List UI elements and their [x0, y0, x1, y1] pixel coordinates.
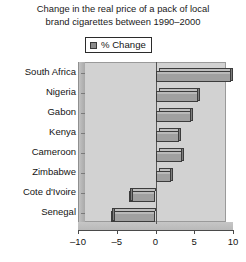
bar-cote-d-ivoire [129, 191, 155, 202]
bar-depth-side [130, 188, 133, 201]
chart-container: Change in the real price of a pack of lo… [0, 0, 246, 262]
bar-kenya [156, 131, 179, 142]
y-axis-label-senegal: Senegal [0, 207, 76, 217]
bar-depth-side [190, 108, 193, 121]
bar-nigeria [156, 91, 199, 102]
y-axis-tick [81, 93, 85, 94]
bar-depth-top [159, 128, 180, 131]
y-axis-label-zimbabwe: Zimbabwe [0, 167, 76, 177]
bar-depth-top [132, 188, 156, 191]
x-axis-tick [117, 230, 118, 234]
bar-depth-side [112, 208, 115, 221]
y-axis-tick [81, 113, 85, 114]
bar-highlight [157, 112, 191, 114]
bar-cameroon [156, 151, 182, 162]
bar-gabon [156, 111, 192, 122]
y-axis-tick [81, 213, 85, 214]
chart-title-line-2: brand cigarettes between 1990–2000 [0, 16, 246, 29]
x-axis-ticklabel: 0 [141, 236, 171, 247]
x-axis-ticklabel: –10 [63, 236, 93, 247]
bar-depth-side [181, 148, 184, 161]
y-axis-label-nigeria: Nigeria [0, 87, 76, 97]
bar-highlight [157, 152, 181, 154]
bar-senegal [111, 211, 156, 222]
bar-depth-side [197, 88, 200, 101]
bar-highlight [157, 132, 178, 134]
chart-title-line-1: Change in the real price of a pack of lo… [0, 3, 246, 16]
bar-depth-top [159, 68, 233, 71]
bar-depth-side [178, 128, 181, 141]
y-axis-tick [81, 193, 85, 194]
bar-highlight [130, 192, 154, 194]
x-axis-ticklabel: 5 [179, 236, 209, 247]
y-axis-tick [81, 173, 85, 174]
bar-zimbabwe [156, 171, 172, 182]
legend-entry-label: % Change [101, 40, 146, 50]
y-axis-label-south-africa: South Africa [0, 67, 76, 77]
bar-depth-top [159, 108, 193, 111]
bar-depth-side [170, 168, 173, 181]
y-axis-label-kenya: Kenya [0, 127, 76, 137]
bar-highlight [157, 72, 231, 74]
y-axis-tick [81, 153, 85, 154]
y-axis-tick [81, 73, 85, 74]
x-axis-ticklabel: 10 [218, 236, 246, 247]
x-axis-tick [233, 230, 234, 234]
chart-title: Change in the real price of a pack of lo… [0, 3, 246, 28]
bar-highlight [157, 92, 198, 94]
y-axis-label-cote-divoire: Cote d'Ivoire [0, 187, 76, 197]
y-axis-tick [81, 133, 85, 134]
legend-swatch-icon [90, 42, 97, 49]
y-axis-category-labels: South Africa Nigeria Gabon Kenya Cameroo… [0, 62, 76, 222]
y-axis-label-cameroon: Cameroon [0, 147, 76, 157]
bar-depth-top [114, 208, 157, 211]
bar-depth-side [230, 68, 233, 81]
chart-legend: % Change [85, 37, 152, 53]
bar-depth-top [159, 88, 200, 91]
y-axis-label-gabon: Gabon [0, 107, 76, 117]
zero-axis-line [156, 62, 157, 224]
plot-area [85, 62, 226, 222]
x-axis-ticklabel: –5 [102, 236, 132, 247]
x-axis-tick [78, 230, 79, 234]
bar-south-africa [156, 71, 232, 82]
bar-highlight [157, 172, 171, 174]
bar-depth-top [159, 148, 183, 151]
x-axis-tick [194, 230, 195, 234]
bar-highlight [112, 212, 155, 214]
plot-left-wall [78, 62, 85, 228]
x-axis-tick [156, 230, 157, 234]
plot-inner [85, 63, 225, 221]
